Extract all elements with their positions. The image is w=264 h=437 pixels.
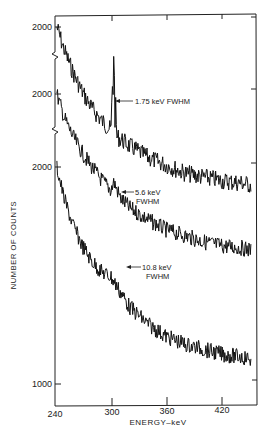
x-tick-label: 240 bbox=[47, 409, 62, 419]
spectrum-trace-1.75kev bbox=[57, 24, 251, 192]
x-tick-label: 360 bbox=[159, 406, 174, 416]
y-tick-label: 2000 bbox=[32, 22, 52, 32]
y-axis-label: NUMBER OF COUNTS bbox=[9, 201, 18, 289]
x-tick-label: 420 bbox=[214, 405, 229, 415]
axis-ticks bbox=[55, 14, 257, 406]
x-tick-label: 300 bbox=[104, 407, 119, 417]
annotation-label: FWHM bbox=[136, 197, 159, 206]
y-tick-label: 2000 bbox=[32, 162, 52, 172]
y-tick-label: 1000 bbox=[32, 379, 52, 389]
annotation-10.8kev: 10.8 keV FWHM bbox=[126, 263, 172, 281]
spectrum-trace-5.6kev bbox=[57, 90, 251, 257]
annotation-label: FWHM bbox=[146, 272, 169, 281]
x-axis-label: ENERGY–keV bbox=[129, 418, 186, 427]
y-tick-labels: 2000 2000 2000 1000 bbox=[32, 22, 52, 389]
annotation-label: 1.75 keV FWHM bbox=[135, 97, 190, 106]
plot-frame bbox=[52, 14, 257, 406]
annotation-label: 5.6 keV bbox=[135, 188, 160, 197]
annotation-label: 10.8 keV bbox=[142, 263, 172, 272]
y-tick-label: 2000 bbox=[32, 89, 52, 99]
annotation-5.6kev: 5.6 keV FWHM bbox=[121, 188, 160, 206]
gamma-spectrum-chart: 2000 2000 2000 1000 240 300 360 420 ENER… bbox=[0, 0, 264, 437]
x-tick-labels: 240 300 360 420 bbox=[47, 405, 229, 419]
annotation-1.75kev: 1.75 keV FWHM bbox=[115, 97, 190, 106]
